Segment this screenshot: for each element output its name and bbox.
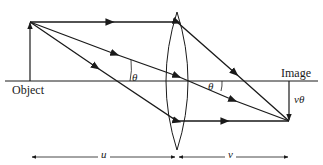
lens-diagram-svg bbox=[0, 0, 323, 165]
image-distance-label: v bbox=[225, 148, 236, 160]
object-distance-label: u bbox=[98, 148, 110, 160]
theta-arc-image bbox=[221, 81, 222, 91]
image-label: Image bbox=[281, 66, 311, 81]
lens-diagram: Object Image θ θ vθ u v bbox=[0, 0, 323, 165]
theta-label-object-side: θ bbox=[132, 71, 137, 83]
theta-label-image-side: θ bbox=[208, 80, 213, 92]
object-label: Object bbox=[12, 83, 44, 98]
central-ray bbox=[30, 22, 289, 121]
image-height-label: vθ bbox=[294, 93, 304, 105]
